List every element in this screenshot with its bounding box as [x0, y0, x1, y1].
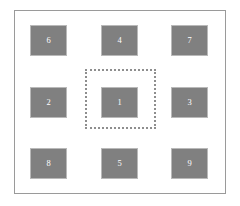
- grid-box-3[interactable]: 3: [171, 87, 208, 118]
- grid-box-label: 9: [187, 159, 191, 168]
- grid-box-1[interactable]: 1: [101, 87, 138, 118]
- grid-box-9[interactable]: 9: [171, 148, 208, 179]
- grid-box-label: 1: [117, 98, 121, 107]
- diagram-canvas: 6 4 7 2 1 3 8 5 9: [0, 0, 240, 206]
- grid-box-4[interactable]: 4: [101, 25, 138, 56]
- grid-box-8[interactable]: 8: [30, 148, 67, 179]
- grid-box-label: 8: [46, 159, 50, 168]
- grid-box-label: 7: [187, 36, 191, 45]
- grid-box-label: 5: [117, 159, 121, 168]
- grid-box-label: 2: [46, 98, 50, 107]
- grid-box-label: 4: [117, 36, 121, 45]
- grid-box-label: 3: [187, 98, 191, 107]
- grid-box-7[interactable]: 7: [171, 25, 208, 56]
- grid-box-6[interactable]: 6: [30, 25, 67, 56]
- grid-box-2[interactable]: 2: [30, 87, 67, 118]
- grid-box-label: 6: [46, 36, 50, 45]
- grid-box-5[interactable]: 5: [101, 148, 138, 179]
